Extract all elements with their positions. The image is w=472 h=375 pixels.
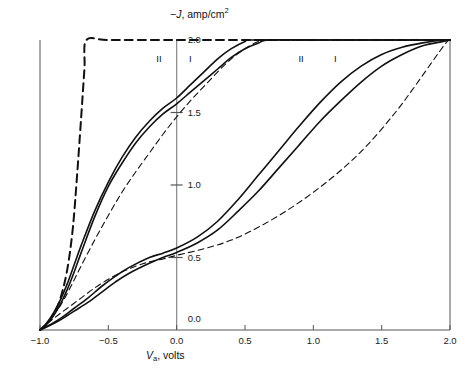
x-tick-label: 0.0: [165, 335, 189, 346]
chart-canvas: [0, 0, 472, 375]
y-tick-label: 0.5: [188, 252, 201, 263]
y-axis-label: −J, amp/cm2: [170, 6, 229, 20]
curve-label-right-ii: II: [298, 53, 303, 64]
x-tick-label: −0.5: [96, 335, 120, 346]
x-tick-label: 1.0: [301, 335, 325, 346]
x-tick-label: 2.0: [438, 335, 462, 346]
curve-label-left-ii: II: [156, 53, 161, 64]
curve-label-left-i: I: [189, 53, 192, 64]
x-tick-label: 0.5: [233, 335, 257, 346]
curve-right-curve-II: [40, 40, 450, 330]
curve-label-right-i: I: [334, 53, 337, 64]
y-tick-label: 0.0: [188, 313, 201, 324]
y-tick-label: 2.0: [188, 34, 201, 45]
x-axis-label: Va, volts: [146, 349, 185, 363]
x-tick-label: 1.5: [370, 335, 394, 346]
y-tick-label: 1.0: [188, 179, 201, 190]
x-tick-label: −1.0: [28, 335, 52, 346]
y-tick-label: 1.5: [188, 107, 201, 118]
figure-container: −J, amp/cm2 Va, volts −1.0−0.50.00.51.01…: [0, 0, 472, 375]
